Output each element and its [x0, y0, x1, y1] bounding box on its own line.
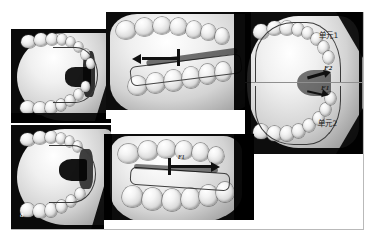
tooth — [116, 21, 136, 39]
panel-left-edge-shadow — [245, 12, 251, 154]
figure-container: 单元1 F2 F1 单元2 a — [11, 12, 364, 230]
tooth — [135, 18, 154, 36]
tooth — [215, 28, 229, 44]
retraction-arrow-head — [132, 54, 141, 64]
protraction-arrow-head — [211, 162, 220, 172]
tooth — [157, 140, 176, 158]
tooth — [162, 189, 182, 211]
lateral-scan-upper — [106, 12, 254, 119]
panel-right-shadow — [234, 134, 254, 229]
label-force-f1-lateral: F1 — [178, 155, 184, 161]
subfigure-label: a — [20, 211, 24, 219]
upper-arch-scan — [11, 29, 111, 123]
panel-bottom-white — [104, 220, 254, 229]
protraction-arrow-tail — [168, 158, 171, 175]
panel-lower-arch-occlusal: a — [11, 125, 111, 229]
panel-lateral-protraction: F1 — [104, 134, 254, 229]
label-unit-1: 单元1 — [319, 32, 339, 40]
panel-occlusal-force-units: 单元1 F2 F1 单元2 — [245, 12, 363, 154]
tooth — [192, 143, 209, 161]
archwire — [53, 47, 98, 103]
label-force-f2: F2 — [324, 65, 332, 72]
protraction-arrow-shaft — [170, 165, 212, 168]
tooth — [142, 188, 163, 210]
horizontal-guide-line — [245, 82, 363, 83]
panel-left-shadow — [104, 134, 112, 229]
tooth — [153, 17, 171, 34]
occlusal-force-scan — [245, 12, 363, 154]
tooth — [181, 188, 200, 209]
tooth — [122, 186, 143, 207]
tooth — [186, 21, 202, 38]
panel-upper-arch-occlusal — [11, 29, 111, 123]
tooth — [138, 141, 158, 160]
panel-bottom-white — [106, 110, 254, 119]
archwire — [49, 145, 96, 203]
tooth — [118, 144, 139, 163]
label-unit-2: 单元2 — [318, 120, 338, 128]
panel-bottom-shadow — [11, 113, 111, 123]
retraction-arrow-shaft — [142, 57, 180, 60]
panel-lateral-retraction — [106, 12, 254, 119]
lower-arch-scan — [11, 125, 111, 229]
tooth — [170, 18, 187, 35]
label-force-f1: F1 — [321, 85, 329, 92]
tooth — [201, 24, 216, 40]
lateral-scan-lower — [104, 134, 254, 229]
retraction-arrow-tail — [177, 49, 180, 66]
